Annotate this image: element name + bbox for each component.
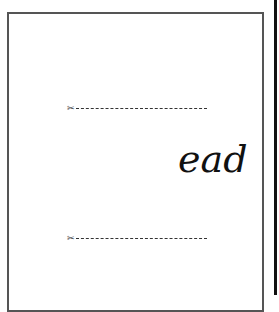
scissors-icon: ✂ [67, 234, 75, 243]
cut-line-top: ✂ [67, 103, 207, 113]
dashed-line [76, 108, 207, 109]
word-ending: ead [178, 140, 247, 178]
page-edge-divider [274, 0, 277, 295]
scissors-icon: ✂ [67, 104, 75, 113]
cut-line-bottom: ✂ [67, 233, 207, 243]
dashed-line [76, 238, 207, 239]
